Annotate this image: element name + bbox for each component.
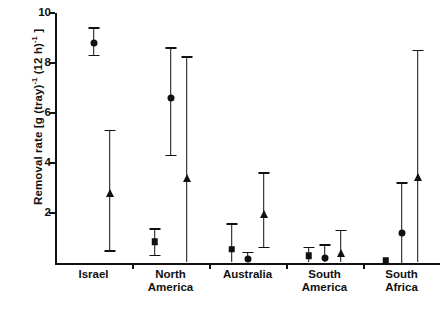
- error-bar: [186, 57, 188, 262]
- error-bar: [340, 231, 342, 262]
- data-point-square: [151, 239, 158, 246]
- data-point-triangle: [106, 189, 114, 197]
- y-tick-label: 6: [45, 107, 51, 119]
- error-bar-cap: [242, 252, 253, 254]
- y-axis-title-prefix: Removal rate [g (tray): [32, 84, 44, 204]
- error-bar-cap: [335, 230, 346, 232]
- x-label-line1: Australia: [223, 268, 272, 281]
- data-point-square: [228, 246, 235, 253]
- x-axis-category-label: SouthAmerica: [302, 268, 347, 294]
- x-tick-mark: [363, 263, 365, 269]
- y-tick-label: 4: [45, 157, 51, 169]
- y-axis-title-exp1: -1: [30, 78, 39, 85]
- error-bar-cap: [88, 27, 99, 29]
- y-tick-label: 8: [45, 57, 51, 69]
- x-axis-line: [55, 263, 440, 265]
- plot-area: 246810: [55, 13, 440, 265]
- data-point-triangle: [337, 249, 345, 257]
- data-point-circle: [90, 40, 97, 47]
- x-axis-category-label: Israel: [78, 268, 108, 281]
- error-bar: [401, 183, 403, 263]
- error-bar: [170, 48, 172, 156]
- x-axis-category-label: NorthAmerica: [148, 268, 193, 294]
- error-bar-cap: [412, 50, 423, 52]
- error-bar-cap: [88, 55, 99, 57]
- data-point-triangle: [260, 210, 268, 218]
- error-bar-cap: [149, 255, 160, 257]
- data-point-square: [382, 257, 389, 264]
- error-bar-cap: [104, 250, 115, 252]
- x-tick-mark: [209, 263, 211, 269]
- y-axis-line: [55, 13, 57, 265]
- data-point-circle: [244, 256, 251, 263]
- y-tick-label: 10: [38, 7, 51, 19]
- error-bar-cap: [181, 56, 192, 58]
- data-point-circle: [321, 254, 328, 261]
- x-tick-mark: [286, 263, 288, 269]
- error-bar: [231, 224, 233, 262]
- x-tick-mark: [132, 263, 134, 269]
- data-point-circle: [398, 230, 405, 237]
- data-point-triangle: [183, 174, 191, 182]
- y-axis-title-suffix: ]: [32, 29, 44, 36]
- x-label-line2: America: [148, 281, 193, 294]
- error-bar-cap: [258, 172, 269, 174]
- x-label-line1: South: [385, 268, 418, 281]
- data-point-square: [305, 252, 312, 259]
- y-tick-label: 2: [45, 207, 51, 219]
- data-point-triangle: [414, 173, 422, 181]
- y-axis-title-exp2: -1: [30, 36, 39, 43]
- error-bar-cap: [319, 244, 330, 246]
- chart-figure: Removal rate [g (tray)-1 (12 h)-1 ] 2468…: [0, 0, 442, 312]
- data-point-circle: [167, 95, 174, 102]
- error-bar-cap: [303, 247, 314, 249]
- x-axis-category-label: SouthAfrica: [385, 268, 418, 294]
- x-label-line1: North: [148, 268, 193, 281]
- error-bar-cap: [104, 130, 115, 132]
- x-label-line2: Africa: [385, 281, 418, 294]
- x-label-line1: Israel: [78, 268, 108, 281]
- x-label-line2: America: [302, 281, 347, 294]
- y-axis-title-mid: (12 h): [32, 43, 44, 78]
- x-axis-category-label: Australia: [223, 268, 272, 281]
- y-axis-title: Removal rate [g (tray)-1 (12 h)-1 ]: [30, 0, 44, 242]
- error-bar: [417, 51, 419, 262]
- error-bar-cap: [165, 155, 176, 157]
- x-label-line1: South: [302, 268, 347, 281]
- error-bar-cap: [226, 223, 237, 225]
- error-bar-cap: [396, 182, 407, 184]
- error-bar-cap: [165, 47, 176, 49]
- error-bar-cap: [258, 247, 269, 249]
- error-bar-cap: [149, 228, 160, 230]
